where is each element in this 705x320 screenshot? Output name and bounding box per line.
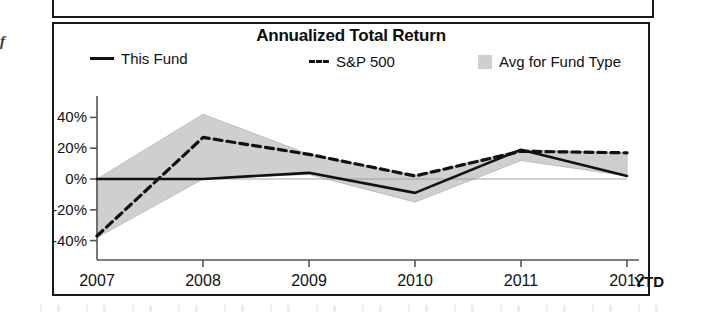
x-tick-label: 2010 [380,272,450,290]
scan-artifact-band [40,305,680,312]
y-tick-label: 20% [35,140,87,155]
x-axis-ytd-label: YTD [634,273,664,291]
y-tick-label: 0% [35,171,87,186]
chart-svg [54,24,652,298]
x-tick-label: 2007 [62,272,132,290]
y-tick-label: -40% [35,233,87,248]
avg-fund-type-band [97,114,627,237]
x-tick-label: 2008 [168,272,238,290]
y-tick-label: 40% [35,109,87,124]
margin-glyph-fragment: f [0,33,9,49]
chart-panel: Annualized Total Return This Fund S&P 50… [52,22,650,296]
x-tick-label: 2009 [274,272,344,290]
plot-area [54,24,652,298]
x-tick-label: 2011 [486,272,556,290]
y-tick-label: -20% [35,202,87,217]
panel-above-fragment [52,0,654,18]
